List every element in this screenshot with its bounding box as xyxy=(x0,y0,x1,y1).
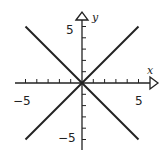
x-axis-arrow xyxy=(150,77,158,89)
x-tick-label-neg5: −5 xyxy=(13,94,31,108)
y-axis-label: y xyxy=(91,11,99,24)
y-axis-arrow xyxy=(76,12,88,20)
y-tick-label-neg5: −5 xyxy=(58,131,76,145)
y-tick-label-5: 5 xyxy=(66,23,74,37)
x-axis-label: x xyxy=(147,64,154,77)
coordinate-plane: x y −5 5 5 −5 xyxy=(0,0,163,158)
x-tick-label-5: 5 xyxy=(135,94,143,108)
